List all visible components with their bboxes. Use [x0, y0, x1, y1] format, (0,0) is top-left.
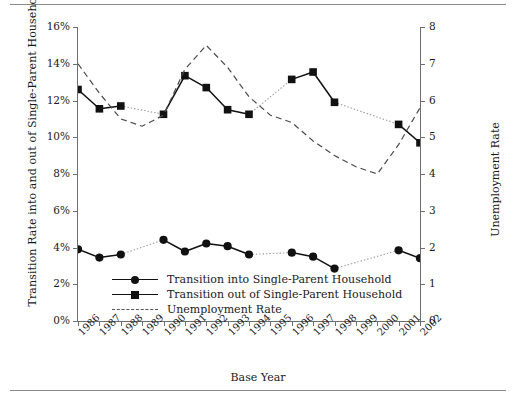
- y-tick-label-right: 6: [429, 94, 459, 106]
- y-tick-label-left: 4%: [26, 241, 70, 253]
- x-tick: [164, 322, 165, 326]
- y-tick-left: [73, 137, 77, 138]
- data-point-marker: [95, 254, 103, 262]
- series-segment: [313, 72, 334, 102]
- data-point-marker: [309, 253, 317, 261]
- x-tick: [399, 322, 400, 326]
- y-tick-right: [421, 27, 425, 28]
- y-tick-label-right: 4: [429, 167, 459, 179]
- data-point-marker: [203, 84, 211, 92]
- series-segment: [121, 106, 164, 114]
- data-point-marker: [96, 105, 104, 113]
- y-tick-label-left: 14%: [26, 57, 70, 69]
- y-tick-left: [73, 64, 77, 65]
- data-point-marker: [288, 76, 296, 84]
- y-tick-left: [73, 174, 77, 175]
- data-point-marker: [117, 102, 125, 110]
- data-point-marker: [117, 250, 125, 258]
- legend-key-icon: [112, 289, 158, 301]
- y-tick-label-right: 7: [429, 57, 459, 69]
- circle-marker-icon: [131, 276, 139, 284]
- data-point-marker: [331, 99, 339, 107]
- y-tick-label-right: 2: [429, 241, 459, 253]
- legend-label: Transition out of Single-Parent Househol…: [167, 288, 402, 301]
- y-axis-left-title: Transition Rate into and out of Single-P…: [26, 7, 39, 307]
- y-axis-right-title: Unemployment Rate: [489, 60, 502, 300]
- data-point-marker: [224, 242, 232, 250]
- data-point-marker: [159, 236, 167, 244]
- series-line-unemployment-rate: [78, 45, 420, 174]
- y-tick-label-left: 16%: [26, 20, 70, 32]
- data-point-marker: [78, 86, 82, 94]
- y-tick-label-left: 2%: [26, 277, 70, 289]
- data-point-marker: [224, 106, 232, 114]
- y-tick-label-right: 5: [429, 130, 459, 142]
- y-tick-left: [73, 321, 77, 322]
- y-tick-right: [421, 64, 425, 65]
- y-tick-left: [73, 211, 77, 212]
- y-tick-left: [73, 27, 77, 28]
- x-tick: [228, 322, 229, 326]
- y-tick-left: [73, 248, 77, 249]
- data-point-marker: [288, 249, 296, 257]
- y-tick-right: [421, 101, 425, 102]
- data-point-marker: [245, 250, 253, 258]
- legend-key-icon: [112, 274, 158, 286]
- y-tick-label-right: 1: [429, 277, 459, 289]
- x-tick: [292, 322, 293, 326]
- legend-key-icon: [112, 304, 158, 316]
- square-marker-icon: [131, 291, 139, 299]
- y-tick-label-left: 12%: [26, 94, 70, 106]
- series-segment: [249, 253, 292, 255]
- top-rule: [10, 4, 506, 5]
- legend-label: Unemployment Rate: [167, 303, 282, 316]
- y-tick-label-left: 6%: [26, 204, 70, 216]
- data-point-marker: [245, 111, 253, 119]
- data-point-marker: [181, 247, 189, 255]
- data-point-marker: [395, 246, 403, 254]
- data-point-marker: [78, 245, 82, 253]
- bottom-rule: [10, 390, 506, 391]
- y-tick-right: [421, 174, 425, 175]
- y-tick-left: [73, 284, 77, 285]
- data-point-marker: [416, 254, 420, 262]
- y-tick-right: [421, 211, 425, 212]
- y-tick-label-right: 8: [429, 20, 459, 32]
- data-point-marker: [202, 239, 210, 247]
- figure-container: Transition Rate into and out of Single-P…: [0, 0, 516, 405]
- y-tick-label-left: 8%: [26, 167, 70, 179]
- y-tick-right: [421, 137, 425, 138]
- x-axis-title: Base Year: [0, 371, 516, 384]
- y-tick-right: [421, 248, 425, 249]
- y-tick-label-right: 3: [429, 204, 459, 216]
- legend: Transition into Single-Parent HouseholdT…: [112, 272, 402, 317]
- series-segment: [249, 79, 292, 114]
- legend-item: Transition out of Single-Parent Househol…: [112, 287, 402, 302]
- legend-item: Unemployment Rate: [112, 302, 402, 317]
- legend-label: Transition into Single-Parent Household: [167, 273, 392, 286]
- y-tick-label-left: 0%: [26, 314, 70, 326]
- y-tick-label-left: 10%: [26, 130, 70, 142]
- data-point-marker: [416, 139, 420, 147]
- series-segment: [121, 240, 164, 255]
- data-point-marker: [395, 121, 403, 129]
- x-tick: [121, 322, 122, 326]
- dashed-line-icon: [112, 309, 158, 310]
- y-tick-right: [421, 284, 425, 285]
- data-point-marker: [309, 68, 317, 76]
- legend-item: Transition into Single-Parent Household: [112, 272, 402, 287]
- y-tick-left: [73, 101, 77, 102]
- x-tick: [335, 322, 336, 326]
- series-segment: [335, 102, 399, 124]
- series-segment: [335, 250, 399, 268]
